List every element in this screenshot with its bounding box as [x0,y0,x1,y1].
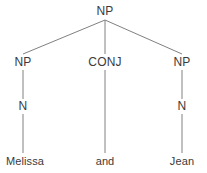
syntax-tree-diagram: NPNPCONJNPNNMelissaandJean [0,0,207,173]
tree-edges-layer [0,0,207,173]
tree-node-jean: Jean [169,156,195,167]
tree-node-left-np: NP [13,56,32,68]
tree-node-right-n: N [177,100,188,112]
tree-node-right-np: NP [172,56,191,68]
tree-node-melissa: Melissa [5,156,45,167]
tree-node-root-np: NP [95,5,114,17]
tree-edge-root-np-to-left-np [23,20,105,54]
tree-node-conj: CONJ [87,56,122,68]
tree-node-and: and [95,156,116,167]
tree-node-left-n: N [18,100,29,112]
tree-edge-root-np-to-right-np [105,20,182,54]
